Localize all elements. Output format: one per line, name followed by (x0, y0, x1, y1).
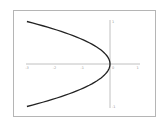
x-tick-label: -2 (53, 66, 57, 70)
y-tick-label: -1 (112, 105, 116, 109)
x-tick-labels: -3-2-101 (25, 66, 139, 70)
x-tick-label: -1 (81, 66, 85, 70)
y-tick-label: 1 (112, 20, 114, 24)
y-tick-labels: 1-1 (112, 20, 116, 109)
x-tick-label: 0 (112, 66, 114, 70)
x-tick-label: -3 (25, 66, 29, 70)
chart-canvas: -3-2-101 1-1 (0, 0, 164, 124)
x-tick-label: 1 (137, 66, 139, 70)
